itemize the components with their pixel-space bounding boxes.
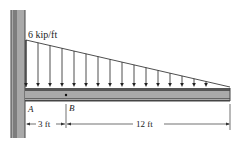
distributed-load (26, 40, 230, 87)
wall-support (11, 10, 25, 138)
dim-12ft-label: 12 ft (136, 119, 153, 129)
dimension-lines (26, 104, 230, 130)
arrowhead-icon (192, 83, 196, 87)
arrowhead-icon (168, 83, 172, 87)
arrowhead-icon (132, 83, 136, 87)
load-arrows (24, 40, 208, 87)
arrowhead-icon (84, 83, 88, 87)
arrowhead-icon (48, 83, 52, 87)
arrowhead-icon (144, 83, 148, 87)
arrowhead-icon (36, 83, 40, 87)
beam (25, 88, 230, 102)
point-b-marker (65, 94, 67, 96)
cantilever-diagram: 6 kip/ft A B 3 ft 12 ft (0, 0, 243, 159)
arrowhead-icon (108, 83, 112, 87)
point-b-label: B (69, 103, 75, 113)
arrowhead-icon (60, 83, 64, 87)
arrowhead-icon (72, 83, 76, 87)
arrowhead-icon (180, 83, 184, 87)
arrowhead-icon (204, 83, 208, 87)
arrowhead-icon (156, 83, 160, 87)
point-a-label: A (27, 104, 34, 114)
dim-3ft-label: 3 ft (38, 119, 51, 129)
arrowhead-icon (120, 83, 124, 87)
load-label: 6 kip/ft (28, 29, 57, 40)
arrowhead-icon (96, 83, 100, 87)
